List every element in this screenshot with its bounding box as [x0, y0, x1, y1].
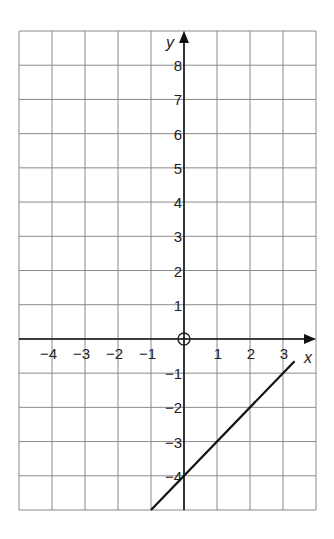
x-tick-label: 3 — [280, 345, 288, 362]
x-tick-label: −3 — [73, 345, 90, 362]
y-tick-label: 4 — [174, 194, 182, 211]
coordinate-grid-chart: −4−3−2−112387654321−1−2−3−4 x y — [0, 0, 334, 539]
y-tick-label: 5 — [174, 160, 182, 177]
y-tick-label: −3 — [165, 434, 182, 451]
y-tick-label: 7 — [174, 91, 182, 108]
y-axis-label: y — [165, 34, 175, 51]
y-tick-label: 2 — [174, 263, 182, 280]
y-tick-label: 3 — [174, 228, 182, 245]
x-axis-label: x — [303, 349, 313, 366]
y-tick-label: −4 — [165, 468, 182, 485]
x-tick-label: 1 — [214, 345, 222, 362]
y-tick-label: 6 — [174, 126, 182, 143]
x-axis-arrow-icon — [304, 334, 316, 344]
y-tick-label: 1 — [174, 297, 182, 314]
y-tick-label: −1 — [165, 365, 182, 382]
y-tick-label: −2 — [165, 399, 182, 416]
y-tick-label: 8 — [174, 57, 182, 74]
x-tick-label: 2 — [247, 345, 255, 362]
x-tick-label: −1 — [139, 345, 156, 362]
x-tick-label: −4 — [40, 345, 57, 362]
y-axis-arrow-icon — [179, 31, 189, 43]
x-tick-label: −2 — [106, 345, 123, 362]
